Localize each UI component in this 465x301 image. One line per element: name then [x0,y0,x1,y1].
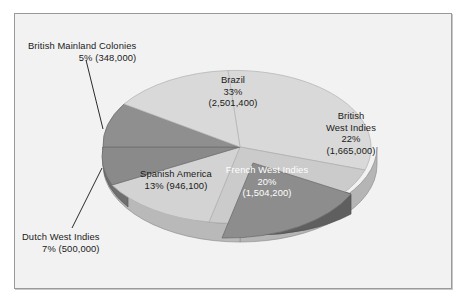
label-british-mainland-colonies: British Mainland Colonies 5% (348,000) [28,40,136,63]
label-spa-name: Spanish America [116,168,236,180]
label-british-west-indies: British West Indies 22% (1,665,000) [299,110,403,156]
label-dutch-west-indies: Dutch West Indies 7% (500,000) [22,231,100,254]
label-spa-value: 13% (946,100) [116,180,236,192]
label-brazil-value: (2,501,400) [178,97,288,109]
leader-line-dutch-west-indies [72,168,102,228]
label-bmc-line2: 5% (348,000) [28,52,136,64]
pie-chart: British Mainland Colonies 5% (348,000) D… [0,0,465,301]
label-bwi-value: (1,665,000) [299,145,403,157]
label-brazil-percent: 33% [178,86,288,98]
label-bwi-percent: 22% [299,133,403,145]
label-dwi-line2: 7% (500,000) [22,243,100,255]
leader-line-british-mainland-colonies [86,60,103,129]
label-bmc-line1: British Mainland Colonies [28,40,136,52]
label-dwi-line1: Dutch West Indies [22,231,100,243]
label-bwi-name2: West Indies [299,122,403,134]
label-brazil-name: Brazil [178,74,288,86]
label-brazil: Brazil 33% (2,501,400) [178,74,288,109]
label-bwi-name1: British [299,110,403,122]
label-spanish-america: Spanish America 13% (946,100) [116,168,236,191]
